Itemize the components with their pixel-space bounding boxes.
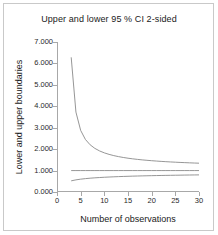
x-tick-label: 30 — [189, 196, 209, 205]
x-tick-mark — [175, 192, 176, 196]
x-tick-mark — [152, 192, 153, 196]
x-tick-mark — [81, 192, 82, 196]
y-tick-mark — [53, 42, 57, 43]
x-tick-label: 15 — [118, 196, 138, 205]
y-tick-label: 7.000 — [25, 37, 53, 46]
y-tick-label: 5.000 — [25, 80, 53, 89]
y-tick-mark — [53, 149, 57, 150]
y-tick-label: 0.000 — [25, 187, 53, 196]
x-tick-label: 20 — [142, 196, 162, 205]
chart-figure: Upper and lower 95 % CI 2-sided Lower an… — [0, 0, 218, 235]
y-tick-label: 4.000 — [25, 101, 53, 110]
x-tick-label: 10 — [94, 196, 114, 205]
y-tick-mark — [53, 63, 57, 64]
y-tick-label: 3.000 — [25, 123, 53, 132]
x-axis-label: Number of observations — [57, 214, 199, 224]
x-tick-mark — [104, 192, 105, 196]
y-tick-label: 1.000 — [25, 166, 53, 175]
x-tick-mark — [128, 192, 129, 196]
y-tick-mark — [53, 85, 57, 86]
y-tick-label: 6.000 — [25, 58, 53, 67]
y-axis-line — [57, 42, 58, 192]
y-tick-mark — [53, 106, 57, 107]
x-tick-mark — [57, 192, 58, 196]
x-tick-label: 5 — [71, 196, 91, 205]
x-tick-label: 0 — [47, 196, 67, 205]
y-tick-mark — [53, 128, 57, 129]
y-tick-label: 2.000 — [25, 144, 53, 153]
y-tick-mark — [53, 171, 57, 172]
x-tick-label: 25 — [165, 196, 185, 205]
x-tick-mark — [199, 192, 200, 196]
